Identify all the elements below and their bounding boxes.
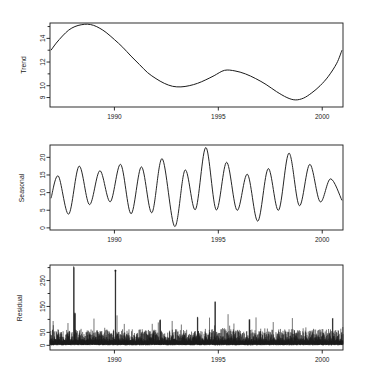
svg-text:2000: 2000 [315,113,330,120]
residual-plot: 050150250199019952000Residual [0,252,367,384]
svg-text:1995: 1995 [211,236,226,243]
svg-text:12: 12 [39,58,46,66]
svg-text:20: 20 [39,153,46,161]
svg-text:150: 150 [39,301,46,312]
svg-text:Trend: Trend [20,56,27,74]
svg-text:Seasonal: Seasonal [18,173,25,202]
svg-text:0: 0 [39,226,46,230]
residual-panel: 050150250199019952000Residual [0,252,367,384]
trend-plot: 9101214199019952000Trend [0,0,367,130]
svg-text:5: 5 [39,208,46,212]
svg-text:1990: 1990 [107,236,122,243]
svg-text:50: 50 [39,328,46,336]
seasonal-panel: 05101520199019952000Seasonal [0,130,367,252]
svg-text:Residual: Residual [16,294,23,321]
decomposition-figure: 9101214199019952000Trend 051015201990199… [0,0,367,384]
svg-text:1990: 1990 [107,356,122,363]
svg-text:0: 0 [39,343,46,347]
residual-series [50,266,343,345]
svg-text:10: 10 [39,82,46,90]
svg-text:10: 10 [39,189,46,197]
svg-text:1990: 1990 [107,113,122,120]
svg-text:9: 9 [39,95,46,99]
svg-text:2000: 2000 [315,356,330,363]
svg-text:15: 15 [39,171,46,179]
trend-line [51,24,342,100]
seasonal-line [51,147,342,226]
svg-text:1995: 1995 [211,113,226,120]
svg-text:2000: 2000 [315,236,330,243]
residual-outlier-point [115,270,117,272]
trend-panel: 9101214199019952000Trend [0,0,367,130]
svg-text:14: 14 [39,34,46,42]
svg-text:250: 250 [39,275,46,286]
seasonal-plot: 05101520199019952000Seasonal [0,130,367,252]
svg-text:1995: 1995 [211,356,226,363]
